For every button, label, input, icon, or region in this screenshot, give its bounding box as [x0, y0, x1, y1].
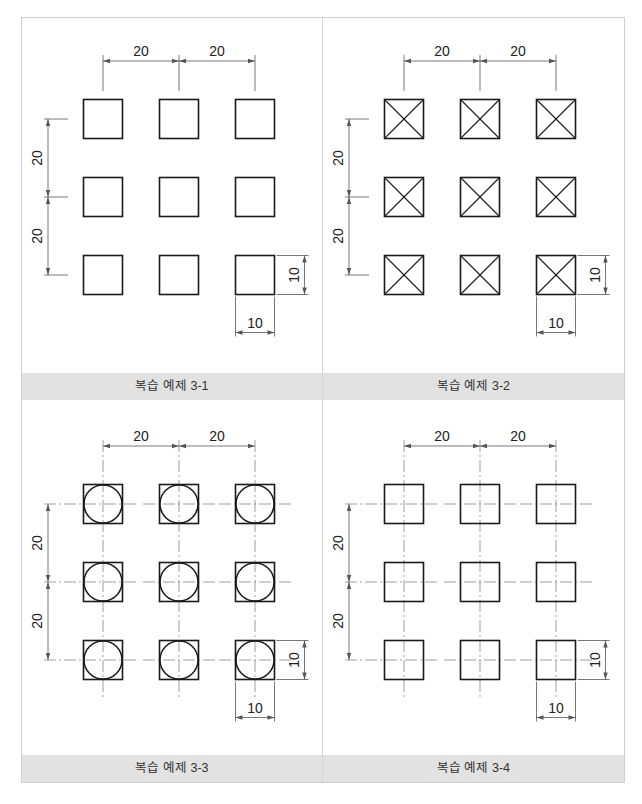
square-outline — [160, 256, 199, 295]
dimension-group: 202020201010 — [330, 43, 610, 337]
dim-label-v2: 20 — [29, 228, 45, 244]
exercise-sheet: 202020201010 복습 예제 3-1 202020201010 복습 예… — [21, 17, 625, 783]
dim-label-h1: 20 — [434, 428, 450, 444]
caption-3-4: 복습 예제 3-4 — [323, 755, 624, 782]
arrowhead-icon — [347, 268, 351, 275]
caption-3-3: 복습 예제 3-3 — [22, 755, 322, 782]
feature — [84, 256, 123, 295]
dim-label-height: 10 — [587, 267, 603, 283]
drawing-3-3: 202020201010 — [22, 400, 323, 755]
dim-label-width: 10 — [247, 700, 263, 716]
arrowhead-icon — [46, 268, 50, 275]
feature-grid — [84, 100, 275, 295]
arrowhead-icon — [179, 59, 186, 63]
arrowhead-icon — [236, 330, 243, 334]
panel-exercise-3-2: 202020201010 복습 예제 3-2 — [323, 18, 624, 400]
square-outline — [84, 178, 123, 217]
feature — [537, 100, 576, 139]
dim-label-h2: 20 — [209, 43, 225, 59]
dim-label-h1: 20 — [434, 43, 450, 59]
arrowhead-icon — [46, 582, 50, 589]
arrowhead-icon — [103, 444, 110, 448]
feature-grid — [385, 100, 576, 295]
arrowhead-icon — [302, 673, 306, 680]
dim-label-h1: 20 — [133, 43, 149, 59]
arrowhead-icon — [569, 715, 576, 719]
arrowhead-icon — [302, 256, 306, 263]
feature — [461, 100, 500, 139]
panel-exercise-3-1: 202020201010 복습 예제 3-1 — [22, 18, 323, 400]
panel-exercise-3-4: 202020201010 복습 예제 3-4 — [323, 400, 624, 782]
dim-label-v1: 20 — [29, 535, 45, 551]
feature — [461, 178, 500, 217]
arrowhead-icon — [236, 715, 243, 719]
square-outline — [236, 100, 275, 139]
arrowhead-icon — [103, 59, 110, 63]
arrowhead-icon — [46, 119, 50, 126]
dim-label-h2: 20 — [209, 428, 225, 444]
arrowhead-icon — [404, 444, 411, 448]
dim-label-height: 10 — [286, 267, 302, 283]
arrowhead-icon — [46, 197, 50, 204]
feature — [160, 256, 199, 295]
arrowhead-icon — [302, 288, 306, 295]
square-outline — [236, 256, 275, 295]
dim-label-v1: 20 — [29, 150, 45, 166]
arrowhead-icon — [480, 444, 487, 448]
square-outline — [84, 100, 123, 139]
square-outline — [84, 256, 123, 295]
dimension-group: 202020201010 — [330, 428, 610, 722]
arrowhead-icon — [347, 582, 351, 589]
feature — [84, 100, 123, 139]
square-outline — [160, 100, 199, 139]
arrowhead-icon — [537, 330, 544, 334]
dim-label-h1: 20 — [133, 428, 149, 444]
dimension-group: 202020201010 — [29, 428, 309, 722]
arrowhead-icon — [46, 190, 50, 197]
feature — [537, 178, 576, 217]
arrowhead-icon — [480, 59, 487, 63]
dim-label-v2: 20 — [330, 613, 346, 629]
arrowhead-icon — [347, 190, 351, 197]
arrowhead-icon — [347, 504, 351, 511]
arrowhead-icon — [302, 641, 306, 648]
caption-3-2: 복습 예제 3-2 — [323, 373, 624, 400]
arrowhead-icon — [473, 59, 480, 63]
dim-label-width: 10 — [247, 315, 263, 331]
drawing-3-2: 202020201010 — [323, 18, 624, 373]
drawing-3-4: 202020201010 — [323, 400, 624, 755]
arrowhead-icon — [569, 330, 576, 334]
arrowhead-icon — [347, 653, 351, 660]
arrowhead-icon — [537, 715, 544, 719]
centerline-group — [345, 440, 592, 700]
drawing-3-1: 202020201010 — [22, 18, 323, 373]
arrowhead-icon — [603, 673, 607, 680]
arrowhead-icon — [603, 288, 607, 295]
dim-label-width: 10 — [548, 700, 564, 716]
arrowhead-icon — [248, 59, 255, 63]
feature — [537, 256, 576, 295]
arrowhead-icon — [46, 504, 50, 511]
arrowhead-icon — [268, 330, 275, 334]
feature — [461, 256, 500, 295]
centerline-group — [44, 440, 291, 700]
arrowhead-icon — [473, 444, 480, 448]
feature — [385, 100, 424, 139]
feature — [236, 178, 275, 217]
arrowhead-icon — [603, 256, 607, 263]
dim-label-v1: 20 — [330, 150, 346, 166]
dim-label-width: 10 — [548, 315, 564, 331]
square-outline — [236, 178, 275, 217]
panel-exercise-3-3: 202020201010 복습 예제 3-3 — [22, 400, 323, 782]
arrowhead-icon — [347, 197, 351, 204]
dimension-group: 202020201010 — [29, 43, 309, 337]
dim-label-h2: 20 — [510, 428, 526, 444]
feature — [385, 256, 424, 295]
arrowhead-icon — [549, 444, 556, 448]
feature — [160, 100, 199, 139]
caption-3-1: 복습 예제 3-1 — [22, 373, 322, 400]
feature — [236, 100, 275, 139]
feature — [84, 178, 123, 217]
arrowhead-icon — [248, 444, 255, 448]
arrowhead-icon — [46, 653, 50, 660]
